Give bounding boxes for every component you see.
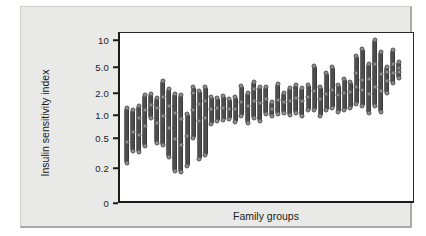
range-bar [124,108,129,163]
range-bar [336,85,341,111]
chart-outer-frame: 105.02.01.00.50.20 Insulin sensitivity i… [20,6,412,228]
data-point [384,79,389,84]
figure-canvas: 105.02.01.00.50.20 Insulin sensitivity i… [0,0,426,236]
range-bar [366,64,371,113]
data-point [233,120,238,125]
range-bar [390,50,395,83]
data-point [372,104,377,109]
data-point [330,88,335,93]
data-point [239,114,244,119]
y-axis: 105.02.01.00.50.20 [21,7,118,236]
data-point [178,142,183,147]
data-point [221,105,226,110]
data-point [203,99,208,104]
data-point [318,85,323,90]
y-tick-label: 0 [21,198,109,209]
data-point [390,70,395,75]
data-point [136,115,141,120]
data-point [299,99,304,104]
data-point [275,81,280,86]
data-point [233,106,238,111]
data-point [257,85,262,90]
range-bar [136,106,141,151]
data-point [130,129,135,134]
data-point [287,85,292,90]
range-bar [142,95,147,147]
data-point [233,95,238,100]
data-point [378,109,383,114]
data-point [178,117,183,122]
data-point [166,154,171,159]
data-point [191,108,196,113]
data-point [312,107,317,112]
data-point [263,85,268,90]
data-point [203,85,208,90]
data-point [154,105,159,110]
data-point [378,89,383,94]
data-point [287,113,292,118]
data-point [384,91,389,96]
data-point [390,61,395,66]
range-bar [172,94,177,171]
data-point [336,109,341,114]
data-point [245,104,250,109]
data-point [293,96,298,101]
data-point [209,106,214,111]
range-bar [354,56,359,104]
data-point [348,89,353,94]
data-point [166,87,171,92]
data-point [203,115,208,120]
data-point [281,100,286,105]
data-point [221,93,226,98]
data-point [360,104,365,109]
data-point [263,97,268,102]
y-tick-label: 2.0 [21,88,109,99]
data-point [354,54,359,59]
data-point [160,95,165,100]
data-point [257,101,262,106]
data-point [330,105,335,110]
data-point [142,108,147,113]
data-point [124,161,129,166]
data-point [142,92,147,97]
data-point [348,105,353,110]
data-point [154,141,159,146]
data-point [130,148,135,153]
data-point [354,102,359,107]
data-point [257,119,262,124]
data-point [124,140,129,145]
data-point [312,64,317,69]
range-bar [372,40,377,106]
data-point [293,110,298,115]
data-point [239,84,244,89]
y-axis-title: Insulin sensitivity index [39,43,51,203]
data-point [160,114,165,119]
data-point [306,108,311,113]
data-point [299,85,304,90]
data-point [191,135,196,140]
data-point [293,82,298,87]
data-point [372,85,377,90]
data-point [324,92,329,97]
data-point [142,123,147,128]
data-point [172,168,177,173]
data-point [130,107,135,112]
data-point [142,144,147,149]
data-point [178,92,183,97]
range-bar [185,114,190,165]
data-point [251,115,256,120]
data-point [342,76,347,81]
data-point [197,157,202,162]
data-point [227,106,232,111]
data-point [348,79,353,84]
data-point [354,84,359,89]
data-point [366,76,371,81]
data-point [178,170,183,175]
data-point [197,119,202,124]
data-point [390,47,395,52]
data-point [287,99,292,104]
data-point [203,152,208,157]
data-point [306,95,311,100]
data-point [281,91,286,96]
data-point [299,114,304,119]
